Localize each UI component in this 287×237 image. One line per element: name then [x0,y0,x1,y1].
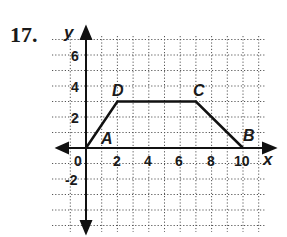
y-axis-label: y [63,23,75,42]
vertex-label-a: A [100,130,113,147]
tick-x-10: 10 [234,153,250,169]
tick-x-8: 8 [207,153,215,169]
tick-y-neg2: -2 [65,172,78,188]
tick-x-2: 2 [113,153,121,169]
vertex-label-b: B [243,127,255,144]
tick-y-6: 6 [71,48,79,64]
tick-y-2: 2 [71,110,79,126]
vertex-label-d: D [112,82,124,99]
coordinate-plane: y x 0 2 4 6 8 10 6 4 2 -2 A B C D [0,0,287,237]
grid [52,36,266,232]
tick-x-0: 0 [74,153,82,169]
x-axis-label: x [262,150,274,169]
tick-x-4: 4 [144,153,152,169]
x-axis-left-arrow-icon [57,143,68,153]
y-axis-up-arrow-icon [81,27,91,39]
vertex-label-c: C [193,82,205,99]
tick-y-4: 4 [71,79,79,95]
tick-labels: 0 2 4 6 8 10 6 4 2 -2 [65,48,250,188]
tick-x-6: 6 [175,153,183,169]
y-axis-down-arrow-icon [81,221,91,233]
